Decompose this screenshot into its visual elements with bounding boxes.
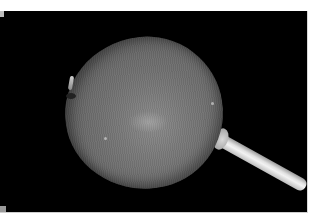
fruit-speck [211,102,214,105]
stem [215,133,308,193]
fruit-speck [104,137,107,140]
fruit-highlight [128,111,168,133]
corner-artifact [0,206,6,212]
corner-artifact [0,11,4,17]
photo [0,11,308,213]
fruit-tip-notch [66,93,76,99]
